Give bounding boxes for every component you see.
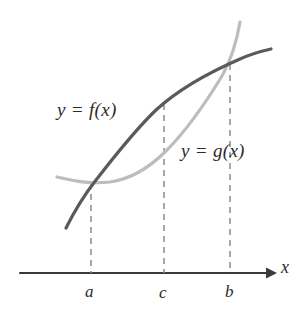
curve-f-label: y = f(x) — [57, 100, 117, 119]
x-axis-arrowhead — [266, 268, 277, 279]
x-axis-label: x — [281, 258, 289, 276]
curve-g-label: y = g(x) — [181, 141, 245, 160]
tick-label-c: c — [159, 284, 167, 301]
tick-label-b: b — [225, 283, 234, 300]
curve-f — [66, 49, 271, 228]
tick-label-a: a — [85, 283, 94, 300]
figure-canvas: y = f(x) y = g(x) a c b x — [0, 0, 299, 321]
diagram-svg — [0, 0, 299, 321]
